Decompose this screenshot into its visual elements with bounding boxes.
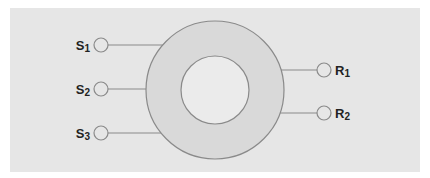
port-s2: S2 xyxy=(76,82,108,98)
port-label: S2 xyxy=(76,82,91,98)
port-label: R1 xyxy=(335,63,350,79)
port-label: S3 xyxy=(76,126,91,142)
port-circle-icon xyxy=(317,63,331,77)
port-label: R2 xyxy=(335,106,350,122)
port-circle-icon xyxy=(94,82,108,96)
port-r1: R1 xyxy=(317,63,350,79)
port-circle-icon xyxy=(317,106,331,120)
port-circle-icon xyxy=(94,126,108,140)
ring-diagram: S1S2S3R1R2 xyxy=(0,0,430,178)
port-label: S1 xyxy=(76,38,91,54)
port-s1: S1 xyxy=(76,38,108,54)
port-circle-icon xyxy=(94,38,108,52)
inner-circle xyxy=(181,56,249,124)
port-s3: S3 xyxy=(76,126,108,142)
port-r2: R2 xyxy=(317,106,350,122)
